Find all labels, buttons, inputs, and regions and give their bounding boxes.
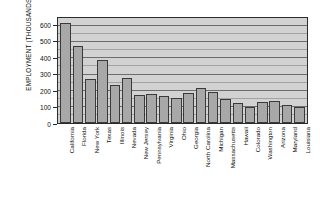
- bar-virginia[interactable]: [159, 96, 170, 123]
- y-tick: 100: [0, 103, 57, 112]
- bar-illinois[interactable]: [110, 85, 121, 123]
- x-tick-label: Washington: [258, 126, 269, 202]
- y-tick-label: 200: [40, 87, 51, 96]
- x-tick-label: Maryland: [283, 126, 294, 202]
- bar-colorado[interactable]: [245, 107, 256, 123]
- x-axis-labels: CaliforniaFloridaNew YorkTexasIllinoisNe…: [57, 126, 308, 202]
- x-tick-label: Pennsylvania: [146, 126, 157, 202]
- y-tick: 400: [0, 54, 57, 63]
- x-tick-label: North Carolina: [196, 126, 207, 202]
- x-tick-label: New York: [84, 126, 95, 202]
- x-tick-label-text: Louisiana: [304, 127, 311, 154]
- x-tick-label: Virginia: [159, 126, 170, 202]
- x-tick-label: Georgia: [183, 126, 194, 202]
- y-tick-label: 300: [40, 70, 51, 79]
- x-tick-label: Texas: [97, 126, 108, 202]
- bar-california[interactable]: [60, 23, 71, 123]
- plot-area: [57, 17, 308, 124]
- x-tick-label: California: [59, 126, 70, 202]
- bar-pennsylvania[interactable]: [146, 94, 157, 123]
- bar-series: [58, 18, 307, 123]
- bar-arizona[interactable]: [269, 101, 280, 123]
- x-tick-label: Hawaii: [233, 126, 244, 202]
- y-tick: 500: [0, 37, 57, 46]
- bar-new-york[interactable]: [85, 79, 96, 123]
- bar-louisiana[interactable]: [294, 107, 305, 123]
- bar-ohio[interactable]: [171, 98, 182, 123]
- bar-chart-figure: EMPLOYMENT (THOUSANDS) 01002003004005006…: [0, 0, 320, 203]
- y-tick: 300: [0, 70, 57, 79]
- y-tick-label: 600: [40, 21, 51, 30]
- x-tick-label: Illinois: [109, 126, 120, 202]
- y-axis-ticks: 0100200300400500600: [0, 17, 57, 124]
- y-tick: 600: [0, 21, 57, 30]
- x-tick-label: Nevada: [121, 126, 132, 202]
- bar-massachusetts[interactable]: [220, 99, 231, 123]
- y-tick-label: 500: [40, 37, 51, 46]
- x-tick-label: Michigan: [208, 126, 219, 202]
- y-tick-label: 100: [40, 103, 51, 112]
- x-tick-label: Arizona: [270, 126, 281, 202]
- x-tick-label: Massachusetts: [221, 126, 232, 202]
- bar-nevada[interactable]: [122, 78, 133, 123]
- y-tick-label: 0: [47, 120, 51, 129]
- x-tick-label: New Jersey: [134, 126, 145, 202]
- bar-georgia[interactable]: [183, 93, 194, 123]
- x-tick-label: Louisiana: [295, 126, 306, 202]
- y-tick: 0: [0, 120, 57, 129]
- y-tick-label: 400: [40, 54, 51, 63]
- bar-new-jersey[interactable]: [134, 95, 145, 123]
- bar-north-carolina[interactable]: [196, 88, 207, 123]
- bar-hawaii[interactable]: [233, 103, 244, 123]
- bar-michigan[interactable]: [208, 92, 219, 123]
- y-tick: 200: [0, 87, 57, 96]
- bar-texas[interactable]: [97, 60, 108, 123]
- bar-maryland[interactable]: [282, 105, 293, 123]
- x-tick-label: Florida: [72, 126, 83, 202]
- bar-washington[interactable]: [257, 102, 268, 123]
- bar-florida[interactable]: [73, 46, 84, 123]
- x-tick-label: Ohio: [171, 126, 182, 202]
- x-tick-label: Colorado: [245, 126, 256, 202]
